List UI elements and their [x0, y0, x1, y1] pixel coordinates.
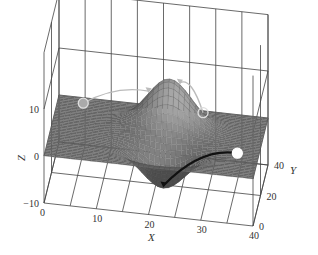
surface-cell: [140, 130, 146, 135]
surface-cell: [196, 171, 202, 173]
y-axis-label: Y: [290, 164, 298, 176]
surface-cell: [160, 150, 166, 158]
surface-cell: [110, 123, 116, 125]
surface-cell: [182, 139, 188, 145]
surface-cell: [167, 122, 173, 130]
surface-cell: [213, 145, 219, 147]
surface-cell: [106, 121, 112, 123]
surface-cell: [202, 145, 208, 148]
surface-cell: [157, 105, 163, 115]
surface-cell: [125, 128, 131, 131]
surface-cell: [203, 142, 209, 145]
surface-cell: [161, 136, 167, 143]
surface-cell: [151, 130, 157, 136]
surface-cell: [190, 171, 196, 173]
surface-cell: [171, 144, 177, 151]
z-tick-label: 10: [29, 104, 39, 115]
surface-cell: [177, 138, 183, 144]
x-tick-label: 20: [145, 219, 155, 230]
surface-cell: [177, 132, 183, 139]
surface-cell: [212, 147, 218, 149]
surface-cell: [156, 122, 162, 130]
surface-cell: [160, 143, 166, 151]
surface-cell: [172, 131, 178, 139]
surface-cell: [166, 144, 172, 151]
z-tick-label: −10: [23, 198, 39, 209]
surface-cell: [161, 171, 167, 175]
x-tick-label: 10: [92, 213, 102, 224]
surface-cell: [105, 123, 111, 125]
surface-cell: [165, 158, 171, 166]
surface-cell: [171, 138, 177, 145]
surface-cell: [162, 122, 168, 130]
z-axis-label: Z: [15, 154, 27, 161]
surface-cell: [167, 114, 173, 123]
surface-cell: [171, 151, 177, 158]
x-axis-label: X: [147, 231, 156, 243]
surface-cell: [166, 137, 172, 144]
surface-cell: [157, 114, 163, 123]
surface-cell: [176, 145, 182, 151]
surface-cell: [151, 122, 157, 129]
surface-cell: [214, 162, 220, 163]
surface-cell: [135, 130, 141, 134]
z-tick-label: 0: [34, 151, 39, 162]
surface-cell: [168, 105, 174, 115]
surface-cell: [163, 96, 169, 105]
surface-cell: [168, 96, 174, 106]
surface-cell: [108, 112, 114, 113]
surface-cell: [146, 130, 152, 136]
surface-cell: [120, 128, 126, 131]
surface-cell: [166, 130, 172, 138]
surface-cell: [156, 136, 162, 143]
surface-cell: [114, 110, 120, 111]
surface-mesh: [44, 79, 268, 188]
surface-cell: [163, 82, 169, 88]
surface-cell: [130, 131, 136, 135]
surface-cell: [162, 105, 168, 114]
surface-cell: [106, 120, 112, 122]
surface-cell: [156, 130, 162, 137]
x-tick-label: 30: [197, 224, 207, 235]
surface-cell: [208, 145, 214, 147]
surface-cell: [162, 174, 168, 178]
surface-cell: [218, 148, 224, 150]
y-tick-label: 0: [259, 221, 264, 232]
surface-cell: [166, 171, 172, 175]
surface-cell: [192, 140, 198, 144]
y-tick-label: 40: [274, 160, 284, 171]
surface-cell: [221, 156, 227, 158]
surface-cell: [161, 130, 167, 137]
x-tick-label: 40: [249, 230, 259, 241]
surface-cell: [181, 145, 187, 151]
surface-cell: [162, 114, 168, 123]
surface-cell: [221, 155, 227, 157]
surface-cell: [163, 88, 169, 96]
surface-cell: [187, 140, 193, 145]
surface-cell: [172, 123, 178, 132]
surface-cell: [221, 158, 227, 160]
surface-cell: [115, 126, 121, 128]
surface-cell: [170, 158, 176, 166]
ball-right: [232, 148, 242, 158]
surface-cell: [201, 172, 207, 174]
ball-left: [78, 98, 88, 108]
x-tick-label: 0: [40, 207, 45, 218]
surface-cell: [146, 123, 152, 130]
surface-cell: [125, 108, 131, 109]
surface-cell: [110, 125, 116, 127]
surface-cell: [220, 159, 226, 160]
y-tick-label: 20: [267, 191, 277, 202]
surface-cell: [160, 157, 166, 166]
surface-plot: 01020304002040−10010 X Y Z: [0, 0, 318, 255]
surface-cell: [217, 149, 223, 151]
surface-cell: [197, 141, 203, 145]
surface-cell: [165, 151, 171, 159]
